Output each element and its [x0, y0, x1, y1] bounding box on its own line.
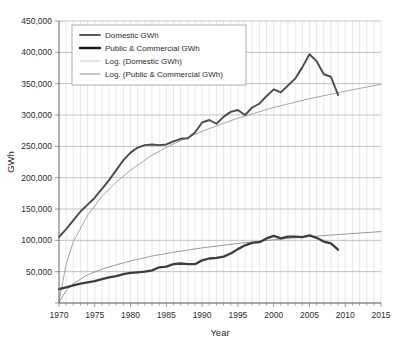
y-tick-label: 350,000: [21, 79, 52, 89]
x-tick-label: 2005: [300, 310, 319, 320]
y-tick-label: 150,000: [21, 204, 52, 214]
y-tick-label: 250,000: [21, 141, 52, 151]
chart-container: 1970197519801985199019952000200520102015…: [0, 0, 403, 343]
x-tick-label: 1995: [228, 310, 247, 320]
x-tick-label: 2010: [336, 310, 355, 320]
y-tick-label: 300,000: [21, 110, 52, 120]
y-tick-label: 200,000: [21, 173, 52, 183]
legend-label: Domestic GWh: [105, 31, 159, 40]
y-tick-label: 400,000: [21, 47, 52, 57]
legend-label: Public & Commercial GWh: [105, 44, 200, 53]
chart-legend: Domestic GWhPublic & Commercial GWhLog. …: [72, 25, 246, 85]
x-tick-label: 1990: [193, 310, 212, 320]
x-tick-label: 1970: [50, 310, 69, 320]
legend-label: Log. (Public & Commercial GWh): [105, 70, 223, 79]
y-tick-label: 450,000: [21, 16, 52, 26]
x-tick-label: 2015: [372, 310, 391, 320]
y-axis-title: GWh: [5, 151, 16, 173]
x-tick-label: 1985: [157, 310, 176, 320]
x-tick-label: 1980: [121, 310, 140, 320]
x-tick-label: 1975: [85, 310, 104, 320]
y-tick-label: 50,000: [26, 267, 52, 277]
y-tick-label: 100,000: [21, 235, 52, 245]
line-chart: 1970197519801985199019952000200520102015…: [0, 0, 403, 343]
x-axis-ticks: [59, 303, 381, 307]
y-axis-ticks: [55, 21, 59, 303]
x-axis-tick-labels: 1970197519801985199019952000200520102015: [50, 310, 391, 320]
x-axis-title: Year: [210, 327, 229, 338]
y-axis-tick-labels: 50,000100,000150,000200,000250,000300,00…: [21, 16, 52, 277]
x-tick-label: 2000: [264, 310, 283, 320]
legend-label: Log. (Domestic GWh): [105, 57, 182, 66]
